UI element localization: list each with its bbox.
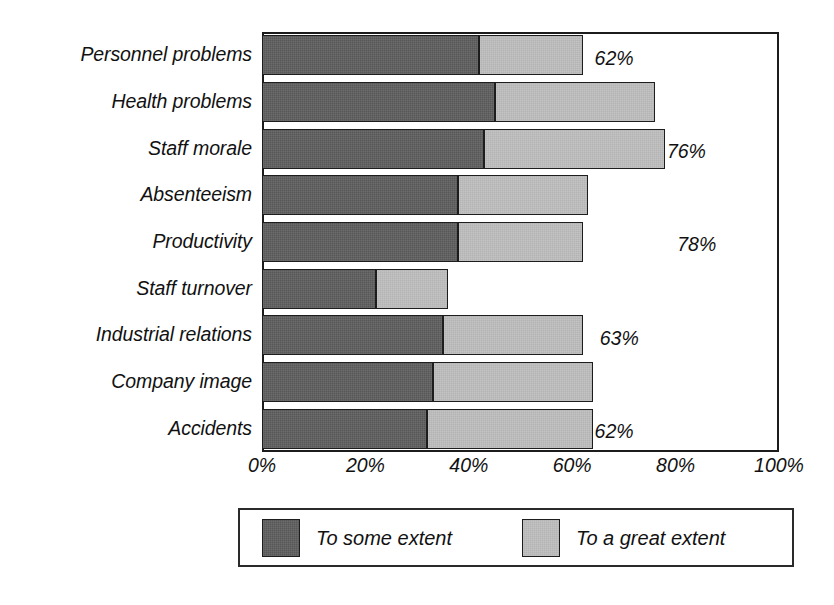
bar-row: 64% [262,362,779,402]
legend-item[interactable]: To some extent [262,510,452,565]
x-axis-tick: 60% [553,456,592,476]
bar-segment-some-extent [262,269,376,309]
category-label: Productivity [0,232,252,252]
x-axis-tick: 80% [656,456,695,476]
legend-label: To some extent [316,528,452,548]
bar-segment-great-extent [443,315,583,355]
bar-segment-some-extent [262,82,495,122]
bar-row: 76% [262,82,779,122]
x-axis-tick: 100% [754,456,804,476]
category-label: Industrial relations [0,325,252,345]
bar-segment-some-extent [262,362,433,402]
bar-value-label: 62% [595,49,634,69]
bar-row: 64 % [262,409,779,449]
bar-segment-great-extent [479,35,582,75]
category-label: Personnel problems [0,45,252,65]
bar-segment-some-extent [262,175,458,215]
bar-row: 63% [262,175,779,215]
legend-label: To a great extent [576,528,725,548]
bar-row: 36% [262,269,779,309]
bar-segment-great-extent [458,175,587,215]
legend-swatch-icon [522,519,560,557]
bar-segment-great-extent [433,362,593,402]
bar-row: 62% [262,222,779,262]
x-axis-tick: 40% [449,456,488,476]
category-label: Staff morale [0,139,252,159]
bar-row: 62% [262,315,779,355]
category-label: Accidents [0,419,252,439]
bar-segment-great-extent [495,82,655,122]
bar-segment-some-extent [262,129,484,169]
category-label: Absenteeism [0,185,252,205]
bar-segment-great-extent [427,409,592,449]
x-axis-tick: 0% [248,456,276,476]
bar-row: 78% [262,129,779,169]
chart-legend: To some extentTo a great extent [238,508,794,567]
bar-segment-some-extent [262,315,443,355]
bars-layer: 62%76%78%63%62%36%62%64%64 % [262,32,779,452]
legend-item[interactable]: To a great extent [522,510,725,565]
bar-segment-great-extent [458,222,582,262]
legend-swatch-icon [262,519,300,557]
bar-segment-some-extent [262,222,458,262]
x-axis-tick-labels: 0%20%40%60%80%100% [262,456,779,484]
category-label: Company image [0,372,252,392]
bar-segment-great-extent [376,269,448,309]
category-label: Staff turnover [0,279,252,299]
stacked-bar-chart: Personnel problemsHealth problemsStaff m… [0,0,834,605]
bar-row: 62% [262,35,779,75]
x-axis-tick: 20% [346,456,385,476]
category-label: Health problems [0,92,252,112]
bar-segment-great-extent [484,129,665,169]
category-axis-labels: Personnel problemsHealth problemsStaff m… [0,32,252,452]
bar-segment-some-extent [262,35,479,75]
bar-segment-some-extent [262,409,427,449]
